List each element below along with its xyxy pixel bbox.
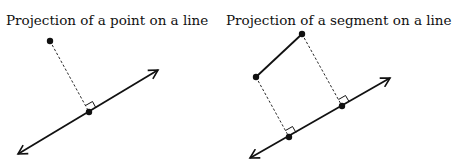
projection-point-1 xyxy=(286,134,292,140)
point xyxy=(47,38,53,44)
projection-point-2 xyxy=(339,103,345,109)
segment-endpoint-1 xyxy=(253,74,259,80)
segment-endpoint-2 xyxy=(299,31,305,37)
dashed-perpendicular xyxy=(50,41,89,112)
segment-projection-diagram xyxy=(250,31,390,158)
line-with-arrows xyxy=(250,78,390,158)
dashed-perpendicular-1 xyxy=(256,77,289,137)
dashed-perpendicular-2 xyxy=(302,34,342,106)
right-angle-icon xyxy=(339,96,350,102)
segment xyxy=(256,34,302,77)
projection-point xyxy=(86,109,92,115)
right-angle-icon xyxy=(86,102,97,109)
point-projection-diagram xyxy=(18,38,158,154)
